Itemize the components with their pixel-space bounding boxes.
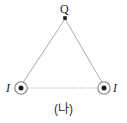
current-out-of-page-left: [15, 82, 27, 94]
triangle-side-left: [22, 19, 65, 84]
current-out-of-page-right: [98, 82, 110, 94]
physics-figure: Q I I (나): [0, 0, 127, 123]
triangle-side-right: [65, 19, 103, 84]
label-point-charge-q: Q: [60, 3, 69, 15]
apex-point-marker: [63, 16, 67, 20]
label-current-left: I: [6, 82, 10, 94]
wire-dot-right: [102, 86, 107, 91]
label-current-right: I: [113, 82, 117, 94]
figure-caption: (나): [0, 103, 127, 115]
wire-dot-left: [19, 86, 24, 91]
